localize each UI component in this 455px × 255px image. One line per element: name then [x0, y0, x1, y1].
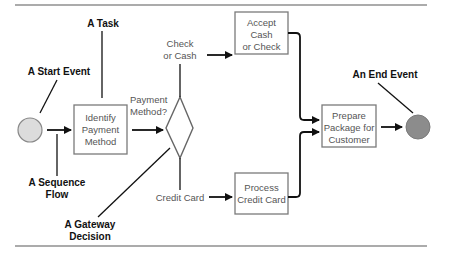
annotation-task: A Task — [87, 18, 119, 29]
annotation-end-leader — [378, 83, 413, 113]
task-label-line: Customer — [328, 134, 369, 145]
flow-label-method: Method? — [130, 106, 167, 117]
annotation-start-event: A Start Event — [28, 66, 91, 77]
task-label-line: or Check — [242, 41, 280, 52]
flow-label-credit-card: Credit Card — [156, 192, 205, 203]
annotation-sequence-flow-2: Flow — [46, 189, 69, 200]
sequence-flow-accept-prepare — [288, 33, 319, 120]
flow-label-payment: Payment — [130, 94, 168, 105]
task-identify-payment-method[interactable]: Identify Payment Method — [74, 105, 127, 154]
flow-label-check: Check — [167, 38, 194, 49]
annotation-sequence-flow: A Sequence — [29, 177, 86, 188]
task-label-line: Method — [85, 136, 117, 147]
sequence-flow-process-prepare — [288, 132, 319, 197]
annotation-start-leader — [40, 80, 57, 113]
end-event-circle[interactable] — [406, 115, 430, 139]
annotation-gateway-2: Decision — [69, 231, 111, 242]
task-accept-cash-or-check[interactable]: Accept Cash or Check — [235, 12, 288, 54]
flow-label-or-cash: or Cash — [163, 50, 196, 61]
annotation-gateway: A Gateway — [65, 219, 116, 230]
bpmn-diagram: Identify Payment Method Payment Method? … — [0, 0, 455, 255]
task-process-credit-card[interactable]: Process Credit Card — [235, 173, 288, 214]
task-label-line: Cash — [250, 29, 272, 40]
task-label-line: Process — [244, 182, 279, 193]
task-prepare-package[interactable]: Prepare Package for Customer — [322, 105, 376, 147]
start-event-circle[interactable] — [18, 118, 42, 142]
task-label-line: Accept — [247, 17, 276, 28]
task-label-line: Prepare — [332, 110, 366, 121]
task-label-line: Payment — [82, 124, 120, 135]
task-label-line: Credit Card — [237, 194, 286, 205]
task-label-line: Identify — [85, 112, 116, 123]
annotation-end-event: An End Event — [352, 69, 418, 80]
annotation-gateway-leader — [98, 148, 170, 217]
task-label-line: Package for — [324, 122, 375, 133]
